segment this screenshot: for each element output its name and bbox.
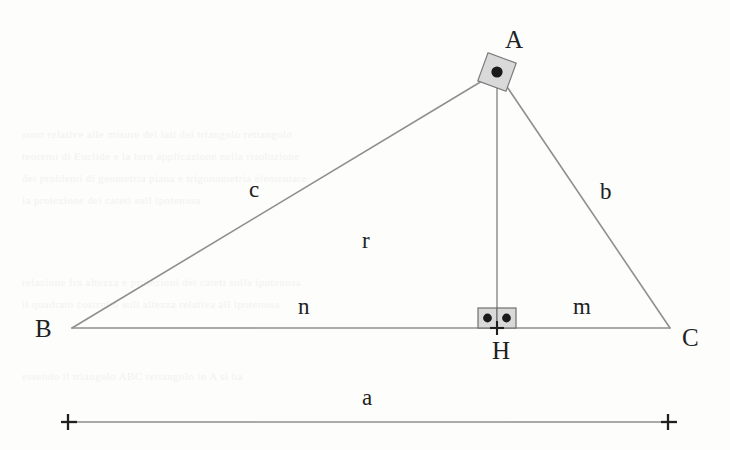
- dimension-label-a: a: [362, 386, 372, 409]
- segment-label-m: m: [573, 295, 591, 318]
- segment-label-c: c: [249, 178, 259, 201]
- vertex-label-h: H: [492, 338, 510, 363]
- segment-label-n: n: [298, 295, 310, 318]
- vertex-label-c: C: [682, 325, 699, 350]
- triangle-diagram: [0, 0, 730, 450]
- segment-label-b: b: [600, 180, 612, 203]
- segment-ba: [72, 72, 497, 328]
- vertex-label-b: B: [35, 316, 52, 341]
- dimension-line-a: [61, 414, 677, 430]
- segment-label-r: r: [362, 229, 370, 252]
- right-angle-marker-a-icon: [478, 53, 516, 91]
- figure-page: sono relative alle misure dei lati del t…: [0, 0, 730, 450]
- dimension-end-right-icon: [661, 414, 677, 430]
- vertex-label-a: A: [505, 27, 523, 52]
- segment-ac: [497, 72, 670, 328]
- dimension-end-left-icon: [61, 414, 77, 430]
